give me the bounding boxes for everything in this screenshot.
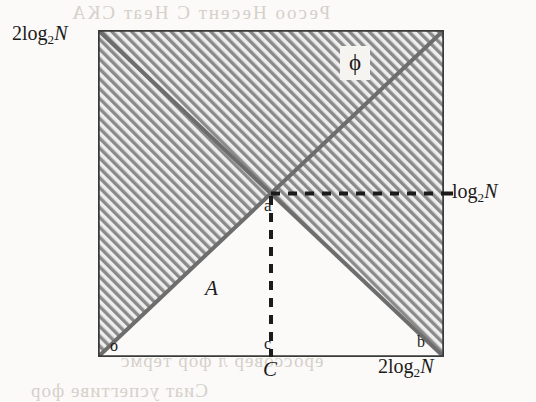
region-label-phi: ϕ bbox=[340, 46, 370, 80]
segment-label-C: C bbox=[263, 357, 277, 382]
point-label-o: o bbox=[110, 337, 118, 355]
axis-label-bottom-right: 2log2N bbox=[378, 355, 434, 381]
axis-label-right-variable: N bbox=[484, 180, 497, 202]
axis-label-top-left-variable: N bbox=[54, 22, 67, 44]
axis-label-right: log2N bbox=[452, 180, 498, 206]
point-label-c: c bbox=[264, 335, 271, 353]
point-label-a: a bbox=[264, 196, 272, 216]
axis-label-bottom-right-variable: N bbox=[420, 355, 433, 377]
bleedthrough-text-top: Ресоо Несент С Неат СКА bbox=[70, 2, 330, 24]
axis-label-top-left: 2log2N bbox=[12, 22, 68, 48]
axis-label-top-left-prefix: 2log bbox=[12, 22, 48, 44]
diagram-svg bbox=[98, 30, 444, 357]
axis-label-bottom-right-prefix: 2log bbox=[378, 355, 414, 377]
axis-label-right-prefix: log bbox=[452, 180, 478, 202]
bleedthrough-text-4: Сиат успегтиве фор bbox=[30, 380, 208, 402]
region-label-A: A bbox=[205, 276, 218, 301]
geometric-diagram bbox=[98, 30, 444, 357]
point-label-b: b bbox=[417, 333, 425, 351]
figure-page: Ресоо Несент С Неат СКА тнат сомпаре тол… bbox=[0, 0, 536, 402]
